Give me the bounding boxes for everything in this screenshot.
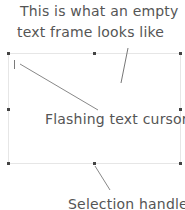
leader-lines	[0, 0, 185, 210]
leader-line-cursor	[20, 64, 98, 110]
leader-line-handle	[95, 166, 110, 190]
handle-caption: Selection handle	[68, 197, 185, 210]
cursor-caption: Flashing text cursor	[45, 112, 185, 126]
leader-line-frame	[121, 48, 128, 83]
